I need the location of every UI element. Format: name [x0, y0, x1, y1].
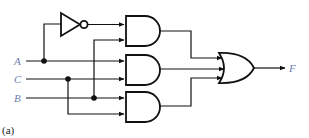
junction-dot-a: [41, 58, 47, 64]
output-label-f: F: [288, 62, 296, 74]
input-label-b: B: [14, 92, 21, 104]
wire-and3-or: [160, 78, 222, 106]
input-label-c: C: [14, 73, 22, 85]
or-gate: [219, 53, 254, 83]
and-gate-2: [126, 55, 160, 85]
and-gate-1: [126, 16, 160, 46]
wire-b: [26, 40, 124, 101]
wire-c: [26, 76, 124, 114]
not-gate: [61, 13, 124, 36]
logic-circuit-diagram: A C B F (a): [0, 0, 309, 138]
wire-a: [26, 24, 124, 64]
and-gate-3: [126, 92, 160, 122]
input-label-a: A: [13, 55, 21, 67]
figure-caption: (a): [2, 124, 15, 137]
junction-dot-b: [91, 95, 97, 101]
junction-dot-c: [65, 76, 71, 82]
wire-and1-or: [160, 31, 222, 58]
inverter-bubble: [80, 21, 87, 28]
